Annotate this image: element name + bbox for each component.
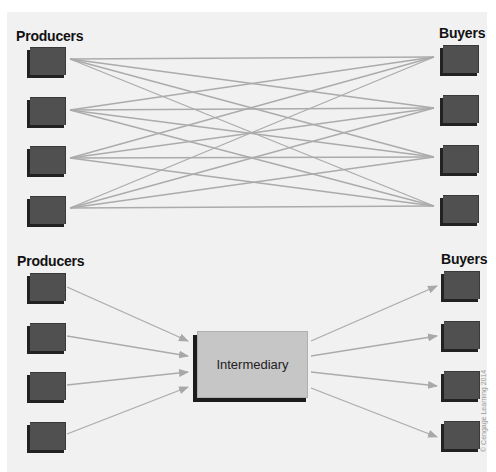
bottom-producer-1 [27, 273, 66, 304]
bottom-buyer-4 [441, 421, 480, 452]
top-producers-label: Producers [16, 28, 83, 44]
top-producer-4 [27, 196, 66, 227]
bottom-producer-3 [27, 372, 66, 403]
bottom-buyer-2 [441, 321, 480, 352]
bottom-buyer-1 [441, 271, 480, 302]
bottom-buyers-label: Buyers [441, 251, 487, 267]
top-buyer-4 [440, 195, 479, 226]
bottom-producer-4 [27, 422, 66, 453]
intermediary-label: Intermediary [216, 357, 288, 372]
copyright-notice: © Cengage Learning 2014 [480, 370, 487, 452]
top-buyer-2 [440, 95, 479, 126]
top-buyers-label: Buyers [439, 25, 485, 41]
bottom-buyer-3 [441, 371, 480, 402]
bottom-producers-label: Producers [17, 253, 84, 269]
top-producer-2 [27, 97, 66, 128]
top-buyer-1 [440, 45, 479, 76]
top-producer-3 [27, 146, 66, 177]
top-buyer-3 [440, 145, 479, 176]
intermediary-box: Intermediary [193, 331, 308, 402]
direct-connections [70, 57, 434, 208]
top-producer-1 [27, 47, 66, 78]
bottom-producer-2 [27, 323, 66, 354]
